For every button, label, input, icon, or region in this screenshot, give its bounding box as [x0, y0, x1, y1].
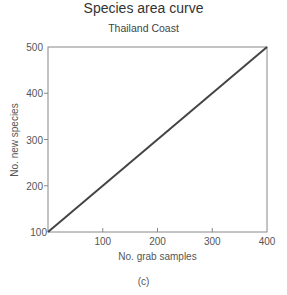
x-tick-label: 300: [204, 236, 221, 247]
y-tick-label: 400: [26, 88, 43, 99]
y-tick-label: 200: [26, 181, 43, 192]
x-axis-label: No. grab samples: [118, 251, 196, 262]
y-axis: 500 400 300 200 100: [26, 42, 48, 238]
plot-area: 500 400 300 200 100 100 200 300 400 No. …: [0, 0, 287, 295]
data-line: [48, 47, 267, 232]
panel-label: (c): [0, 276, 287, 287]
y-tick-label: 300: [26, 135, 43, 146]
x-tick-label: 400: [259, 236, 276, 247]
x-tick-label: 200: [149, 236, 166, 247]
y-tick-label: 100: [30, 227, 47, 238]
x-tick-label: 100: [94, 236, 111, 247]
y-tick-label: 500: [26, 42, 43, 53]
x-axis: 100 200 300 400: [94, 228, 275, 247]
y-axis-label: No. new species: [9, 103, 20, 176]
